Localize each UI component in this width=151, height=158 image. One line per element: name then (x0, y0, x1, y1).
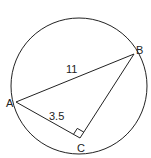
segment-ab (16, 54, 134, 102)
segment-ac-length-label: 3.5 (49, 111, 64, 122)
right-angle-marker (74, 128, 84, 134)
segment-ab-length-label: 11 (66, 64, 77, 75)
point-label-a: A (6, 98, 13, 109)
point-label-c: C (77, 143, 85, 154)
circumscribed-circle (11, 18, 147, 154)
geometry-diagram (0, 0, 151, 158)
segment-bc (80, 54, 134, 138)
segment-ac (16, 102, 80, 138)
point-label-b: B (136, 45, 143, 56)
